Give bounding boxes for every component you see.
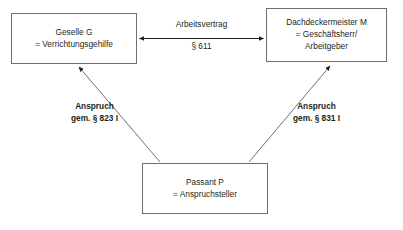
node-geselle-g: Geselle G = Verrichtungsgehilfe: [11, 13, 137, 64]
edge-label-anspruch-823: Anspruch gem. § 823 I: [42, 100, 147, 124]
edge-label-anspruch-831-line-1: Anspruch: [264, 100, 369, 112]
edge-label-anspruch-823-line-1: Anspruch: [42, 100, 147, 112]
edge-label-anspruch-831: Anspruch gem. § 831 I: [264, 100, 369, 124]
node-dachdeckermeister-m: Dachdeckermeister M = Geschäftsherr/ Arb…: [266, 8, 387, 62]
node-passant-line-1: Passant P: [186, 177, 224, 189]
node-meister-line-3: Arbeitgeber: [305, 41, 348, 53]
edge-label-arbeitsvertrag: Arbeitsvertrag: [145, 18, 258, 30]
node-passant-p: Passant P = Anspruchsteller: [142, 163, 268, 214]
node-passant-line-2: = Anspruchsteller: [173, 189, 237, 201]
node-meister-line-1: Dachdeckermeister M: [286, 17, 367, 29]
node-geselle-line-1: Geselle G: [56, 27, 93, 39]
node-geselle-line-2: = Verrichtungsgehilfe: [35, 39, 113, 51]
node-meister-line-2: = Geschäftsherr/: [296, 29, 358, 41]
edge-label-anspruch-831-line-2: gem. § 831 I: [264, 112, 369, 124]
diagram-canvas: Geselle G = Verrichtungsgehilfe Dachdeck…: [0, 0, 403, 230]
edge-label-anspruch-823-line-2: gem. § 823 I: [42, 112, 147, 124]
edge-label-paragraph-611: § 611: [145, 40, 258, 52]
